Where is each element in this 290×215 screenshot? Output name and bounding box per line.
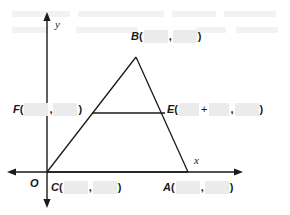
- point-F-name: F: [13, 103, 20, 115]
- point-C-comma: ,: [89, 181, 92, 193]
- point-A-x-blank[interactable]: [176, 181, 200, 194]
- y-axis-arrow-down: [43, 199, 50, 208]
- point-F-x-blank[interactable]: [24, 103, 48, 116]
- point-B-name: B: [131, 30, 139, 42]
- point-E-x-blank-2[interactable]: [209, 103, 229, 116]
- point-B-close-paren: ): [198, 30, 202, 42]
- point-label-F: F(,): [13, 103, 82, 117]
- point-E-x-blank[interactable]: [179, 103, 199, 116]
- point-C-close-paren: ): [118, 181, 122, 193]
- point-F-close-paren: ): [78, 103, 82, 115]
- point-label-C: C(,): [51, 181, 121, 195]
- x-axis-arrow-left: [7, 168, 16, 175]
- point-E-y-blank[interactable]: [235, 103, 259, 116]
- point-B-open-paren: (: [139, 30, 143, 42]
- point-A-name: A: [163, 181, 171, 193]
- x-axis-label: x: [194, 155, 199, 166]
- point-label-B: B(,): [131, 30, 201, 44]
- point-F-y-blank[interactable]: [53, 103, 77, 116]
- y-axis-label: y: [55, 19, 60, 30]
- point-B-x-blank[interactable]: [144, 30, 168, 43]
- point-E-open-paren: (: [174, 103, 178, 115]
- point-B-comma: ,: [169, 30, 172, 42]
- figure-canvas: y x O B(,) F(,) E(+,) C(,) A(,): [0, 0, 290, 215]
- x-axis-arrow-right: [234, 168, 243, 175]
- point-F-comma: ,: [49, 103, 52, 115]
- point-E-plus-sign: +: [200, 103, 208, 115]
- point-A-open-paren: (: [171, 181, 175, 193]
- point-B-y-blank[interactable]: [173, 30, 197, 43]
- point-E-close-paren: ): [260, 103, 264, 115]
- point-F-open-paren: (: [20, 103, 24, 115]
- point-C-y-blank[interactable]: [93, 181, 117, 194]
- point-C-name: C: [51, 181, 59, 193]
- point-C-x-blank[interactable]: [64, 181, 88, 194]
- point-label-E: E(+,): [167, 103, 263, 117]
- point-A-y-blank[interactable]: [205, 181, 229, 194]
- y-axis-arrow-up: [43, 12, 50, 21]
- origin-label: O: [30, 178, 39, 189]
- point-A-comma: ,: [201, 181, 204, 193]
- point-label-A: A(,): [163, 181, 233, 195]
- point-C-open-paren: (: [59, 181, 63, 193]
- point-A-close-paren: ): [230, 181, 234, 193]
- point-E-comma: ,: [230, 103, 233, 115]
